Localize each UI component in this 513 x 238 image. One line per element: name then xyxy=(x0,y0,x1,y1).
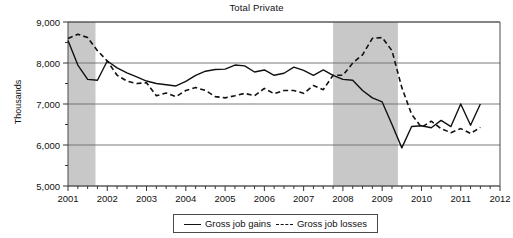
x-tick-label: 2012 xyxy=(480,193,513,204)
chart-container: Total Private Thousands 5,0006,0007,0008… xyxy=(0,0,513,238)
x-tick-label: 2006 xyxy=(244,193,284,204)
legend-label-losses: Gross job losses xyxy=(297,218,367,229)
y-tick-label: 5,000 xyxy=(16,181,60,192)
series-line-gross-job-losses xyxy=(68,34,480,133)
x-tick-label: 2002 xyxy=(87,193,127,204)
y-tick-label: 7,000 xyxy=(16,99,60,110)
x-tick-label: 2004 xyxy=(166,193,206,204)
legend-line-dashed-icon xyxy=(276,220,293,228)
x-tick-label: 2003 xyxy=(127,193,167,204)
legend-line-solid-icon xyxy=(184,220,201,228)
legend-item-losses: Gross job losses xyxy=(276,218,367,229)
x-tick-label: 2005 xyxy=(205,193,245,204)
chart-legend: Gross job gains Gross job losses xyxy=(173,214,378,233)
series-line-gross-job-gains xyxy=(68,40,480,147)
x-tick-label: 2010 xyxy=(401,193,441,204)
legend-label-gains: Gross job gains xyxy=(205,218,271,229)
x-tick-label: 2007 xyxy=(284,193,324,204)
x-tick-label: 2008 xyxy=(323,193,363,204)
y-tick-label: 6,000 xyxy=(16,140,60,151)
y-tick-label: 8,000 xyxy=(16,58,60,69)
x-tick-label: 2009 xyxy=(362,193,402,204)
x-tick-label: 2011 xyxy=(441,193,481,204)
legend-item-gains: Gross job gains xyxy=(184,218,271,229)
y-tick-label: 9,000 xyxy=(16,17,60,28)
x-tick-label: 2001 xyxy=(48,193,88,204)
